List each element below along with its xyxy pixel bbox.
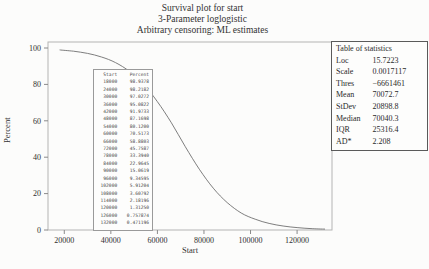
annotation-start-value: 18000 [96, 78, 122, 85]
y-tick-label: 100 [29, 44, 41, 53]
annotation-table-row: 8400022.9645 [96, 160, 149, 167]
annotation-start-value: 66000 [96, 138, 122, 145]
x-tick-label: 100000 [239, 236, 263, 245]
stats-table-row: IQR25316.4 [336, 124, 423, 136]
annotation-start-value: 54000 [96, 123, 122, 130]
annotation-percent-value: 45.7587 [122, 145, 149, 152]
annotation-table: StartPercent 1800098.93782400098.2182300… [93, 69, 153, 231]
annotation-start-value: 132000 [96, 219, 122, 226]
annotation-table-row: 4200091.9733 [96, 108, 149, 115]
stats-value: 70072.7 [373, 89, 423, 101]
annotation-start-value: 30000 [96, 93, 122, 100]
annotation-table-row: 1200001.31250 [96, 204, 149, 211]
stats-table: Table of statistics Loc15.7223Scale0.001… [331, 41, 428, 151]
annotation-percent-value: 58.8803 [122, 138, 149, 145]
annotation-percent-value: 3.60792 [122, 190, 149, 197]
annotation-table-row: 1020005.91204 [96, 182, 149, 189]
annotation-percent-value: 22.9645 [122, 160, 149, 167]
stats-value: 0.0017117 [373, 66, 423, 78]
stats-table-grid: Loc15.7223Scale0.0017117Thres−6661461Mea… [336, 55, 423, 148]
annotation-percent-value: 97.0272 [122, 93, 149, 100]
x-tick-label: 60000 [147, 236, 167, 245]
x-tick-label: 80000 [194, 236, 214, 245]
y-axis-label: Percent [0, 0, 14, 260]
annotation-table-grid: StartPercent 1800098.93782400098.2182300… [96, 71, 149, 227]
y-tick-label: 80 [33, 80, 41, 89]
annotation-start-value: 60000 [96, 130, 122, 137]
annotation-start-value: 90000 [96, 167, 122, 174]
annotation-start-value: 84000 [96, 160, 122, 167]
stats-value: 15.7223 [373, 55, 423, 67]
annotation-percent-value: 15.0619 [122, 167, 149, 174]
annotation-table-row: 1260000.757874 [96, 212, 149, 219]
annotation-start-value: 96000 [96, 175, 122, 182]
annotation-table-row: 1080003.60792 [96, 190, 149, 197]
annotation-start-value: 120000 [96, 204, 122, 211]
annotation-percent-value: 70.5173 [122, 130, 149, 137]
annotation-table-row: 1320000.471196 [96, 219, 149, 226]
annotation-start-value: 108000 [96, 190, 122, 197]
annotation-percent-value: 2.18196 [122, 197, 149, 204]
annotation-percent-value: 91.9733 [122, 108, 149, 115]
annotation-percent-value: 9.34595 [122, 175, 149, 182]
annotation-table-row: 5400080.1200 [96, 123, 149, 130]
stats-label: Loc [336, 55, 373, 67]
annotation-start-value: 102000 [96, 182, 122, 189]
annotation-start-value: 48000 [96, 115, 122, 122]
stats-table-row: Thres−6661461 [336, 78, 423, 90]
stats-value: −6661461 [373, 78, 423, 90]
annotation-percent-value: 95.0822 [122, 101, 149, 108]
y-tick-label: 40 [33, 153, 41, 162]
annotation-start-value: 36000 [96, 101, 122, 108]
plot-frame [48, 42, 332, 230]
annotation-percent-value: 5.91204 [122, 182, 149, 189]
annotation-table-row: 4800087.1698 [96, 115, 149, 122]
annotation-table-header-row: StartPercent [96, 71, 149, 78]
stats-label: Thres [336, 78, 373, 90]
stats-value: 70040.3 [373, 113, 423, 125]
stats-table-row: Loc15.7223 [336, 55, 423, 67]
annotation-table-body: 1800098.93782400098.21823000097.02723600… [96, 78, 149, 226]
annotation-percent-value: 98.9378 [122, 78, 149, 85]
x-axis-label: Start [48, 245, 332, 255]
annotation-table-row: 1140002.18196 [96, 197, 149, 204]
annotation-start-value: 72000 [96, 145, 122, 152]
stats-table-row: AD*2.208 [336, 136, 423, 148]
annotation-percent-value: 33.3940 [122, 152, 149, 159]
annotation-percent-value: 87.1698 [122, 115, 149, 122]
stats-label: IQR [336, 124, 373, 136]
stats-label: Mean [336, 89, 373, 101]
stats-table-title: Table of statistics [336, 43, 423, 55]
annotation-table-row: 2400098.2182 [96, 86, 149, 93]
annotation-start-value: 42000 [96, 108, 122, 115]
x-tick-label: 40000 [101, 236, 121, 245]
stats-table-body: Loc15.7223Scale0.0017117Thres−6661461Mea… [336, 55, 423, 148]
annotation-percent-value: 0.757874 [122, 212, 149, 219]
stats-value: 2.208 [373, 136, 423, 148]
stats-label: AD* [336, 136, 373, 148]
annotation-table-row: 960009.34595 [96, 175, 149, 182]
annotation-table-row: 3600095.0822 [96, 101, 149, 108]
annotation-percent-value: 80.1200 [122, 123, 149, 130]
stats-label: Scale [336, 66, 373, 78]
annotation-table-row: 6600058.8803 [96, 138, 149, 145]
annotation-start-value: 126000 [96, 212, 122, 219]
annotation-table-row: 1800098.9378 [96, 78, 149, 85]
y-tick-label: 0 [37, 226, 41, 235]
annotation-table-row: 7200045.7587 [96, 145, 149, 152]
annotation-start-value: 114000 [96, 197, 122, 204]
stats-table-row: Median70040.3 [336, 113, 423, 125]
stats-table-row: Scale0.0017117 [336, 66, 423, 78]
annotation-percent-value: 98.2182 [122, 86, 149, 93]
annotation-percent-value: 1.31250 [122, 204, 149, 211]
annotation-table-row: 3000097.0272 [96, 93, 149, 100]
stats-label: StDev [336, 101, 373, 113]
y-tick-label: 20 [33, 189, 41, 198]
survival-plot-figure: Survival plot for start 3-Parameter logl… [0, 0, 429, 269]
stats-label: Median [336, 113, 373, 125]
stats-table-row: StDev20898.8 [336, 101, 423, 113]
annotation-start-value: 78000 [96, 152, 122, 159]
annotation-start-value: 24000 [96, 86, 122, 93]
annotation-table-row: 9000015.0619 [96, 167, 149, 174]
x-tick-label: 120000 [285, 236, 309, 245]
